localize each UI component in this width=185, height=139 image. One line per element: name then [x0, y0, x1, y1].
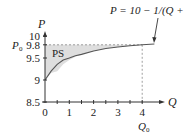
- x-tick-label-3: 3: [115, 106, 121, 118]
- p0-subscript: 0: [19, 45, 23, 53]
- y-tick-label-9-8: 9.8: [26, 39, 40, 51]
- q-axis-label: Q: [168, 95, 177, 109]
- chart-figure: 10 9.8 9.5 9 8.5 P 0 P 0 1 2 3 4 Q Q 0 P…: [0, 0, 185, 139]
- x-axis-arrow-icon: [159, 100, 165, 104]
- p0-label: P: [11, 39, 19, 51]
- x-tick-label-4: 4: [139, 106, 145, 118]
- formula-label: P = 10 − 1/(Q + 1): [109, 4, 185, 17]
- p-axis-label: P: [37, 17, 46, 31]
- q0-label: Q: [138, 120, 146, 132]
- formula-pointer-line: [155, 18, 159, 38]
- q0-subscript: 0: [146, 126, 150, 134]
- y-tick-label-9: 9: [35, 74, 41, 86]
- formula-pointer-arrow-icon: [152, 37, 156, 43]
- x-tick-label-0: 0: [42, 106, 48, 118]
- y-tick-label-9-5: 9.5: [26, 52, 40, 64]
- x-tick-label-1: 1: [67, 106, 73, 118]
- y-tick-label-8-5: 8.5: [26, 96, 40, 108]
- ps-label: PS: [52, 47, 64, 59]
- x-tick-label-2: 2: [91, 106, 97, 118]
